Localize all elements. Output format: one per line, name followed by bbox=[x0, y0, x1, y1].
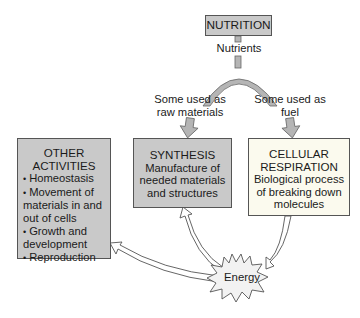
branch-label-fuel: Some used as fuel bbox=[240, 93, 340, 119]
nutrients-stem bbox=[235, 56, 241, 68]
list-item: •Homeostasis bbox=[23, 172, 110, 186]
respiration-title-line2: RESPIRATION bbox=[249, 161, 349, 174]
branch-label-raw-materials: Some used as raw materials bbox=[140, 93, 240, 119]
arrow-energy-to-synthesis bbox=[180, 207, 224, 272]
bullet-icon: • bbox=[23, 188, 26, 198]
list-item: •Movement of bbox=[23, 186, 110, 200]
list-item: •Growth and bbox=[23, 225, 110, 239]
cellular-respiration-box: CELLULAR RESPIRATION Biological process … bbox=[248, 138, 350, 216]
nutrients-label: Nutrients bbox=[206, 42, 272, 55]
list-item: •Reproduction bbox=[23, 251, 110, 265]
list-item-continuation: out of cells bbox=[23, 212, 110, 225]
bullet-icon: • bbox=[23, 174, 26, 184]
synthesis-box: SYNTHESIS Manufacture of needed material… bbox=[133, 138, 232, 208]
list-item-continuation: materials in and bbox=[23, 199, 110, 212]
other-title-line1: OTHER bbox=[18, 147, 110, 160]
nutrition-label: NUTRITION bbox=[206, 18, 270, 32]
arrow-to-synthesis bbox=[179, 117, 200, 139]
other-activities-list: •Homeostasis •Movement of materials in a… bbox=[23, 172, 110, 264]
synthesis-desc-line: needed materials bbox=[134, 174, 231, 187]
respiration-title-line1: CELLULAR bbox=[249, 148, 349, 161]
bullet-icon: • bbox=[23, 253, 26, 263]
arrow-respiration-to-energy bbox=[266, 216, 291, 269]
respiration-desc-line: Biological process bbox=[249, 173, 349, 186]
other-title-line2: ACTIVITIES bbox=[18, 160, 110, 173]
energy-label: Energy bbox=[218, 271, 266, 283]
arrow-to-respiration bbox=[281, 117, 302, 139]
respiration-desc-line: molecules bbox=[249, 198, 349, 211]
synthesis-desc-line: Manufacture of bbox=[134, 162, 231, 175]
other-activities-box: OTHER ACTIVITIES •Homeostasis •Movement … bbox=[17, 138, 111, 259]
nutrition-box: NUTRITION bbox=[205, 15, 272, 36]
synthesis-title: SYNTHESIS bbox=[134, 149, 231, 162]
list-item-continuation: development bbox=[23, 238, 110, 251]
respiration-desc-line: of breaking down bbox=[249, 186, 349, 199]
bullet-icon: • bbox=[23, 227, 26, 237]
synthesis-desc-line: and structures bbox=[134, 187, 231, 200]
